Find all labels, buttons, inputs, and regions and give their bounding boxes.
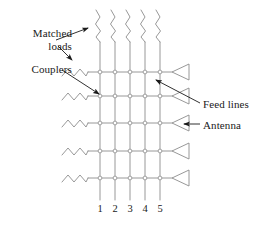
label-antenna: Antenna <box>203 119 241 132</box>
coupler-node <box>128 176 132 180</box>
coupler-node <box>128 121 132 125</box>
left-matched-loads-group <box>62 69 88 182</box>
matched-load-left-4 <box>62 148 88 155</box>
antenna-horn <box>172 115 189 131</box>
coupler-node <box>98 70 102 74</box>
label-couplers: Couplers <box>6 63 72 76</box>
matched-load-left-3 <box>62 120 88 127</box>
leader-feed-lines <box>156 80 200 103</box>
coupler-node <box>128 149 132 153</box>
matched-load-top-5 <box>156 10 161 42</box>
coupler-node <box>128 94 132 98</box>
coupler-node <box>143 176 147 180</box>
coupler-node <box>143 149 147 153</box>
coupler-node <box>113 149 117 153</box>
port-number-1: 1 <box>94 203 106 214</box>
coupler-node <box>98 94 102 98</box>
coupler-node <box>128 70 132 74</box>
antenna-horn <box>172 64 189 80</box>
coupler-node <box>143 94 147 98</box>
matched-load-top-3 <box>126 10 131 42</box>
label-matched-loads: Matched loads <box>6 27 72 52</box>
port-number-4: 4 <box>139 203 151 214</box>
coupler-node <box>143 70 147 74</box>
coupler-node <box>158 176 162 180</box>
coupler-node <box>158 94 162 98</box>
diagram-figure: Matched loads Couplers Feed lines Antenn… <box>0 0 264 225</box>
label-feed-lines: Feed lines <box>203 98 249 111</box>
coupler-node <box>113 70 117 74</box>
coupler-node <box>158 70 162 74</box>
coupler-node <box>113 121 117 125</box>
matched-load-top-4 <box>141 10 146 42</box>
antenna-horn <box>172 170 189 186</box>
coupler-node <box>143 121 147 125</box>
coupler-node <box>158 121 162 125</box>
matched-load-left-2 <box>62 93 88 100</box>
antenna-horn <box>172 143 189 159</box>
port-number-5: 5 <box>154 203 166 214</box>
matched-load-top-1 <box>96 10 101 42</box>
port-number-3: 3 <box>124 203 136 214</box>
top-matched-loads-group <box>96 10 161 42</box>
coupler-node <box>113 176 117 180</box>
annotation-leaders-group <box>56 28 200 124</box>
coupler-node <box>98 149 102 153</box>
matched-load-left-5 <box>62 175 88 182</box>
coupler-node <box>98 121 102 125</box>
coupler-node <box>158 149 162 153</box>
antennas-group <box>172 64 189 186</box>
coupler-node <box>113 94 117 98</box>
coupler-node <box>98 176 102 180</box>
matched-load-top-2 <box>111 10 116 42</box>
port-number-2: 2 <box>109 203 121 214</box>
